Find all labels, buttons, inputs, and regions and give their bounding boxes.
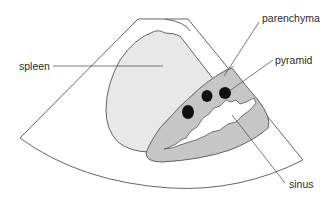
- parenchyma-label: parenchyma: [262, 12, 320, 24]
- ultrasound-spleen-kidney-diagram: spleen parenchyma pyramid sinus: [0, 0, 335, 211]
- spleen-label: spleen: [19, 60, 50, 72]
- pyramid-label: pyramid: [275, 54, 313, 66]
- sinus-label: sinus: [289, 178, 314, 190]
- pyramid-2: [202, 90, 213, 102]
- parenchyma-leader-line: [224, 22, 259, 76]
- pyramid-3: [219, 87, 231, 99]
- pyramid-1: [182, 105, 194, 119]
